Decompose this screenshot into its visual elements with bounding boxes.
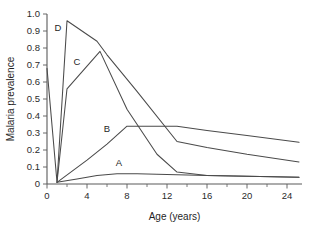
y-axis-title: Malaria prevalence [5, 56, 16, 141]
y-tick-label: 0.1 [27, 161, 40, 172]
y-tick-label: 0.5 [27, 93, 40, 104]
x-tick-label: 16 [202, 190, 213, 201]
series-line-A [57, 174, 299, 183]
y-axis-ticks: 00.10.20.30.40.50.60.70.80.91.0 [27, 8, 47, 189]
series-line-B [57, 126, 299, 182]
x-tick-label: 8 [124, 190, 129, 201]
malaria-prevalence-chart: 00.10.20.30.40.50.60.70.80.91.0 04812162… [0, 0, 310, 240]
series-labels: ABCD [55, 22, 123, 168]
x-axis-ticks: 04812162024 [44, 184, 292, 201]
series-line-C [57, 51, 299, 182]
x-tick-label: 24 [282, 190, 293, 201]
series-line-D [47, 21, 299, 183]
y-tick-label: 0.9 [27, 25, 40, 36]
y-tick-label: 0.2 [27, 144, 40, 155]
y-tick-label: 0.7 [27, 59, 40, 70]
y-tick-label: 0 [35, 178, 40, 189]
x-tick-label: 4 [84, 190, 89, 201]
series-label-C: C [74, 56, 81, 67]
y-tick-label: 0.8 [27, 42, 40, 53]
y-tick-label: 0.3 [27, 127, 40, 138]
series-label-B: B [104, 123, 110, 134]
series-label-D: D [55, 22, 62, 33]
chart-canvas: 00.10.20.30.40.50.60.70.80.91.0 04812162… [0, 0, 310, 240]
y-tick-label: 0.6 [27, 76, 40, 87]
x-tick-label: 0 [44, 190, 49, 201]
series-lines [47, 21, 299, 183]
x-tick-label: 20 [242, 190, 253, 201]
y-tick-label: 0.4 [27, 110, 40, 121]
y-tick-label: 1.0 [27, 8, 40, 19]
x-axis-title: Age (years) [149, 211, 201, 222]
series-label-A: A [116, 157, 123, 168]
x-tick-label: 12 [162, 190, 173, 201]
